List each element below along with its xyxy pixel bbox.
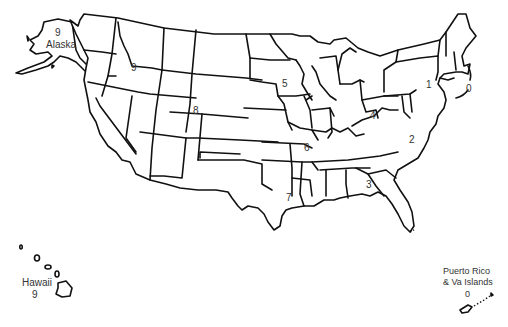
- puerto-rico-label-line2: & Va Islands: [443, 277, 493, 287]
- region-label-new-england: 0: [466, 83, 472, 94]
- puerto-rico-value: 0: [465, 289, 470, 299]
- region-label-6: 6: [304, 142, 310, 153]
- region-label-7: 7: [286, 192, 292, 203]
- hawaii-value: 9: [32, 289, 38, 300]
- region-label-1: 1: [426, 79, 432, 90]
- region-label-9: 9: [131, 62, 137, 73]
- hawaii-label: Hawaii: [22, 277, 52, 288]
- region-label-4: 4: [370, 110, 376, 121]
- us-map: 1 2 3 4 5 6 7 8 9 0 9 Alaska Hawaii 9 Pu…: [0, 0, 508, 327]
- alaska-label: Alaska: [46, 39, 76, 50]
- region-label-2: 2: [409, 134, 415, 145]
- alaska-value: 9: [55, 27, 61, 38]
- hawaii-shape: [20, 245, 72, 297]
- contiguous-us: [70, 14, 476, 232]
- region-label-8: 8: [193, 105, 199, 116]
- puerto-rico-label-line1: Puerto Rico: [443, 266, 490, 276]
- region-label-3: 3: [366, 179, 372, 190]
- region-label-5: 5: [282, 78, 288, 89]
